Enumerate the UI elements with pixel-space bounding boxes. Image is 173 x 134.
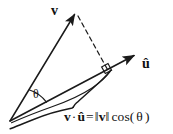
dot-product-formula: v·û=‖v‖cos(θ) xyxy=(64,110,150,124)
formula-cos-arg: θ xyxy=(134,109,143,124)
formula-equals: = xyxy=(85,109,95,124)
formula-norm-v: v xyxy=(99,109,106,124)
formula-cos-close: ) xyxy=(143,109,150,124)
projection-dashed-line xyxy=(78,16,108,70)
vector-projection-figure: v û θ v·û=‖v‖cos(θ) xyxy=(0,0,173,134)
vector-v-shaft xyxy=(10,15,75,122)
formula-cos-open: cos( xyxy=(109,109,134,124)
vector-v-label: v xyxy=(51,4,58,18)
formula-v: v xyxy=(64,109,71,124)
angle-theta-label: θ xyxy=(33,88,39,100)
vector-v-arrow xyxy=(10,15,75,122)
vector-u-hat-label: û xyxy=(142,57,150,71)
formula-u-hat: û xyxy=(77,109,85,124)
